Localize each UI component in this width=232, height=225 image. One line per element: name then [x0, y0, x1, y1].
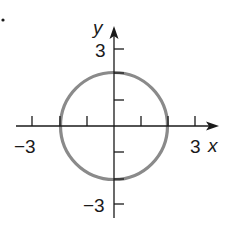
circle-graph: −3 3 3 −3 x y	[0, 0, 232, 225]
x-tick-label-neg3: −3	[14, 136, 36, 157]
y-tick-label-3: 3	[95, 40, 106, 61]
y-axis-label: y	[91, 17, 104, 38]
bullet-dot	[1, 18, 4, 21]
y-tick-label-neg3: −3	[83, 195, 105, 216]
x-axis-label: x	[207, 135, 219, 156]
x-tick-label-3: 3	[190, 136, 201, 157]
